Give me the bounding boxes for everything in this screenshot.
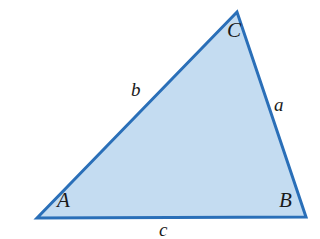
vertex-label-A: A [57, 190, 70, 211]
side-label-a: a [274, 95, 284, 114]
vertex-label-B: B [279, 190, 292, 211]
vertex-label-C: C [227, 20, 241, 41]
triangle-shape [0, 0, 320, 239]
triangle-polygon [37, 12, 306, 218]
side-label-c: c [159, 220, 167, 239]
side-label-b: b [131, 80, 141, 99]
triangle-figure: A B C a b c [0, 0, 320, 239]
